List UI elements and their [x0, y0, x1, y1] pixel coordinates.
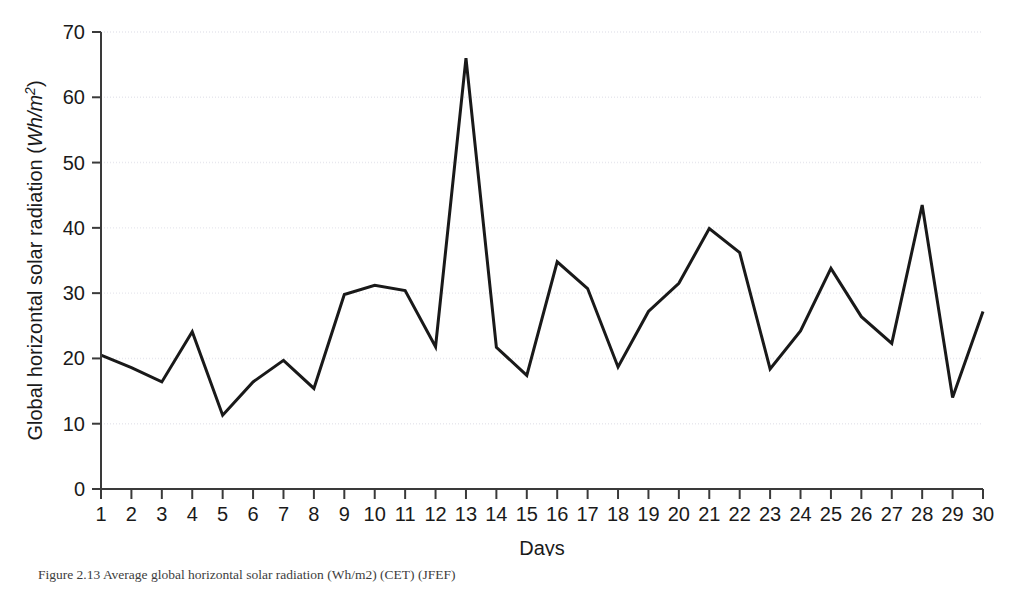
y-tick-label: 10 [63, 413, 85, 435]
figure-caption-text: Figure 2.13 Average global horizontal so… [38, 569, 978, 581]
x-axis-title-text: Days [519, 537, 565, 556]
x-tick-label: 30 [972, 503, 994, 525]
y-axis: 010203040506070 [63, 21, 101, 500]
line-chart-svg: 010203040506070 123456789101112131415161… [0, 0, 1011, 556]
figure-caption: Figure 2.13 Average global horizontal so… [38, 569, 978, 589]
x-tick-label: 16 [546, 503, 568, 525]
x-tick-label: 10 [364, 503, 386, 525]
y-tick-labels-group: 010203040506070 [63, 21, 85, 500]
y-tick-label: 0 [74, 478, 85, 500]
x-tick-label: 1 [95, 503, 106, 525]
y-tick-label: 70 [63, 21, 85, 43]
y-tick-label: 50 [63, 152, 85, 174]
x-tick-label: 7 [278, 503, 289, 525]
y-tick-label: 20 [63, 347, 85, 369]
data-line-path [101, 58, 983, 415]
y-axis-title-text: Global horizontal solar radiation (Wh/m2… [22, 80, 46, 440]
x-tick-label: 20 [668, 503, 690, 525]
x-tick-label: 18 [607, 503, 629, 525]
y-axis-title: Global horizontal solar radiation (Wh/m2… [22, 80, 46, 440]
x-tick-labels-group: 1234567891011121314151617181920212223242… [95, 503, 994, 525]
y-tick-label: 30 [63, 282, 85, 304]
data-series-group [101, 58, 983, 415]
gridlines-group [101, 32, 983, 489]
x-tick-label: 23 [759, 503, 781, 525]
x-tick-label: 27 [881, 503, 903, 525]
x-tick-label: 13 [455, 503, 477, 525]
y-tick-label: 60 [63, 86, 85, 108]
x-tick-label: 15 [516, 503, 538, 525]
x-tick-label: 22 [729, 503, 751, 525]
chart-plot-area: 010203040506070 123456789101112131415161… [0, 0, 1011, 556]
x-tick-label: 29 [941, 503, 963, 525]
x-tick-marks-group [101, 489, 983, 499]
x-tick-label: 17 [576, 503, 598, 525]
x-tick-label: 2 [126, 503, 137, 525]
x-tick-label: 14 [485, 503, 507, 525]
x-tick-label: 25 [820, 503, 842, 525]
x-tick-label: 28 [911, 503, 933, 525]
x-tick-label: 11 [395, 503, 416, 525]
y-axis-title-prefix: Global horizontal solar radiation ( [24, 147, 46, 441]
x-tick-label: 3 [156, 503, 167, 525]
y-axis-title-suffix: ) [24, 80, 46, 87]
x-tick-label: 12 [424, 503, 446, 525]
y-tick-marks-group [92, 32, 101, 489]
x-tick-label: 9 [339, 503, 350, 525]
y-tick-label: 40 [63, 217, 85, 239]
x-tick-label: 6 [248, 503, 259, 525]
x-tick-label: 21 [698, 503, 720, 525]
figure-container: 010203040506070 123456789101112131415161… [0, 0, 1011, 589]
x-tick-label: 5 [217, 503, 228, 525]
x-tick-label: 24 [789, 503, 811, 525]
x-tick-label: 8 [308, 503, 319, 525]
y-axis-title-unit: Wh/m [24, 95, 46, 147]
y-axis-title-exponent: 2 [22, 87, 38, 96]
x-tick-label: 4 [187, 503, 198, 525]
x-tick-label: 19 [637, 503, 659, 525]
x-axis: 1234567891011121314151617181920212223242… [95, 489, 994, 525]
x-tick-label: 26 [850, 503, 872, 525]
